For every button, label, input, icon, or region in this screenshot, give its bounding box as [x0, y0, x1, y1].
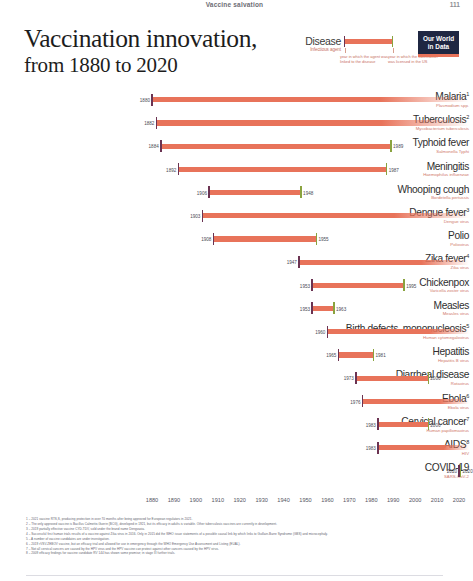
table-row[interactable]: Malaria1Plasmodium spp.1880 [0, 92, 469, 115]
timeline-bar[interactable] [209, 190, 301, 195]
legend-bar-sample [345, 39, 393, 44]
timeline-bar[interactable] [161, 144, 391, 149]
agent-identified-marker [160, 140, 162, 152]
table-row[interactable]: Tuberculosis2Mycobacterium tuberculosis1… [0, 115, 469, 138]
bar-area: 20202020 [152, 463, 469, 486]
start-year-label: 1953 [298, 284, 310, 289]
x-axis-tick: 1980 [365, 497, 377, 503]
agent-identified-marker [213, 233, 215, 245]
timeline-bar[interactable] [327, 329, 469, 334]
timeline-bar[interactable] [338, 352, 373, 357]
timeline-bar[interactable] [356, 376, 428, 381]
table-row[interactable]: Dengue fever3Dengue virus1903 [0, 208, 469, 231]
bar-area: 19081955 [152, 231, 469, 254]
table-row[interactable]: AIDS8HIV1983 [0, 440, 469, 463]
table-row[interactable]: HepatitisHepatitis B virus19651981 [0, 347, 469, 370]
bar-area: 1960 [152, 324, 469, 347]
x-axis-tick: 1920 [233, 497, 245, 503]
page-number: 111 [450, 1, 460, 8]
x-axis-tick: 1960 [321, 497, 333, 503]
footnotes: 1 – 2021 vaccine RTS,S, producing protec… [26, 517, 446, 556]
x-axis-tick: 1970 [343, 497, 355, 503]
vaccine-licensed-marker [428, 372, 430, 384]
x-axis-tick: 1910 [212, 497, 224, 503]
agent-identified-marker [151, 94, 153, 106]
timeline-bar[interactable] [312, 306, 334, 311]
table-row[interactable]: Ebola6Ebola virus1976 [0, 394, 469, 417]
agent-identified-marker [355, 372, 357, 384]
table-row[interactable]: COVID-19SARS-CoV-220202020 [0, 463, 469, 486]
logo-line-1: Our World [418, 35, 459, 43]
table-row[interactable]: Whooping coughBordetella pertussis190619… [0, 185, 469, 208]
start-year-label: 1892 [164, 168, 176, 173]
legend-right-tick [393, 48, 394, 53]
bar-area: 19531995 [152, 278, 469, 301]
legend-agent-label: Infectious agent [283, 47, 341, 52]
timeline-bar[interactable] [363, 399, 469, 404]
agent-identified-marker [208, 186, 210, 198]
our-world-in-data-logo[interactable]: Our World in Data [418, 31, 459, 57]
end-year-label: 2006 [430, 423, 440, 428]
vaccination-timeline-chart: Malaria1Plasmodium spp.1880Tuberculosis2… [0, 92, 469, 492]
chart-legend: Disease Infectious agent year in which t… [283, 35, 408, 90]
table-row[interactable]: Diarrheal diseaseRotavirus19732006 [0, 370, 469, 393]
timeline-bar[interactable] [378, 422, 428, 427]
table-row[interactable]: MeaslesMeasles virus19531963 [0, 301, 469, 324]
bar-area: 19732006 [152, 370, 469, 393]
start-year-label: 1953 [298, 307, 310, 312]
x-axis-tick: 1890 [168, 497, 180, 503]
agent-identified-marker [311, 302, 313, 314]
vaccine-licensed-marker [403, 279, 405, 291]
vaccine-licensed-marker [460, 465, 462, 477]
timeline-bar[interactable] [152, 97, 469, 102]
end-year-label: 1987 [389, 168, 399, 173]
bar-area: 19061948 [152, 185, 469, 208]
start-year-label: 1960 [313, 330, 325, 335]
bar-area: 18921987 [152, 162, 469, 185]
end-year-label: 1995 [406, 284, 416, 289]
bar-area: 19832006 [152, 417, 469, 440]
timeline-bar[interactable] [202, 213, 469, 218]
bar-area: 1976 [152, 394, 469, 417]
timeline-bar[interactable] [299, 260, 469, 265]
table-row[interactable]: Zika fever4Zika virus1947 [0, 254, 469, 277]
timeline-bar[interactable] [213, 236, 316, 241]
timeline-bar[interactable] [312, 283, 404, 288]
footnote-line: 8 – 2009 efficacy findings for vaccine c… [26, 551, 446, 556]
table-row[interactable]: PolioPoliovirus19081955 [0, 231, 469, 254]
legend-note-left: year in which the agent was linked to th… [340, 54, 394, 65]
agent-identified-marker [156, 117, 158, 129]
end-year-label: 1963 [336, 307, 346, 312]
page-title: Vaccination innovation, from 1880 to 202… [24, 26, 294, 76]
timeline-bar[interactable] [378, 445, 469, 450]
start-year-label: 1882 [142, 121, 154, 126]
start-year-label: 1884 [147, 144, 159, 149]
vaccine-licensed-marker [390, 140, 392, 152]
end-year-label: 1955 [318, 237, 328, 242]
legend-left-tick [345, 48, 346, 53]
agent-identified-marker [377, 418, 379, 430]
agent-identified-marker [362, 395, 364, 407]
table-row[interactable]: Cervical cancer7Human papillomavirus1983… [0, 417, 469, 440]
x-axis-tick: 1880 [146, 497, 158, 503]
start-year-label: 1983 [364, 423, 376, 428]
start-year-label: 1976 [349, 400, 361, 405]
table-row[interactable]: Typhoid feverSalmonella Typhi18841989 [0, 138, 469, 161]
title-line-1: Vaccination innovation, [24, 26, 294, 53]
table-row[interactable]: Birth defects, mononucleosis5Human cytom… [0, 324, 469, 347]
start-year-label: 1947 [285, 260, 297, 265]
bar-area: 1983 [152, 440, 469, 463]
end-year-label: 1989 [393, 144, 403, 149]
timeline-bar[interactable] [156, 120, 469, 125]
bar-area: 19651981 [152, 347, 469, 370]
agent-identified-marker [202, 210, 204, 222]
bar-area: 18841989 [152, 138, 469, 161]
agent-identified-marker [327, 326, 329, 338]
agent-identified-marker [338, 349, 340, 361]
table-row[interactable]: MeningitisHaemophilus influenzae18921987 [0, 162, 469, 185]
agent-identified-marker [178, 163, 180, 175]
agent-identified-marker [298, 256, 300, 268]
logo-line-2: in Data [418, 43, 459, 51]
timeline-bar[interactable] [178, 167, 386, 172]
table-row[interactable]: ChickenpoxVaricella zoster virus19531995 [0, 278, 469, 301]
